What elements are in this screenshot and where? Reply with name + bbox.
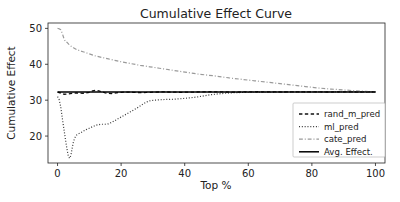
chart-figure: Cumulative Effect Curve 020406080100 203… — [0, 0, 400, 202]
x-tick-label: 20 — [115, 168, 128, 179]
x-tick-label: 80 — [306, 168, 319, 179]
y-tick-label: 50 — [29, 23, 42, 34]
legend-label: ml_pred — [324, 122, 359, 132]
legend-label: Avg. Effect. — [324, 147, 373, 157]
x-tick-label: 0 — [54, 168, 60, 179]
x-tick-label: 100 — [366, 168, 385, 179]
y-axis-title: Cumulative Effect — [5, 46, 17, 140]
y-tick-label: 20 — [29, 131, 42, 142]
cumulative-effect-chart: Cumulative Effect Curve 020406080100 203… — [0, 0, 400, 202]
x-axis-title: Top % — [199, 179, 231, 191]
x-tick-label: 60 — [242, 168, 255, 179]
y-tick-label: 40 — [29, 59, 42, 70]
chart-legend: rand_m_predml_predcate_predAvg. Effect. — [293, 103, 385, 157]
y-tick-label: 30 — [29, 95, 42, 106]
legend-label: rand_m_pred — [324, 109, 380, 119]
x-tick-label: 40 — [178, 168, 191, 179]
chart-title: Cumulative Effect Curve — [140, 6, 292, 21]
legend-label: cate_pred — [324, 134, 367, 144]
